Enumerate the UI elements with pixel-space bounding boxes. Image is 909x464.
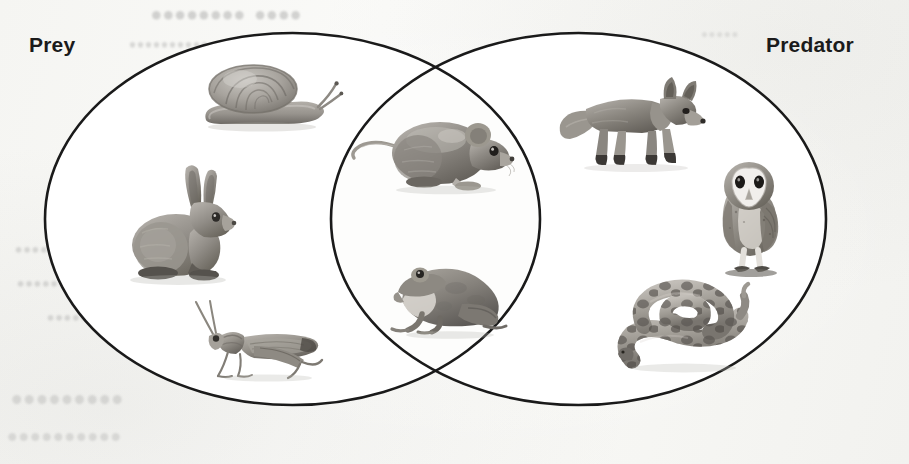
snake-icon[interactable]: Snake [614,262,762,378]
predator-set-label: Predator [766,33,854,57]
frog-icon[interactable]: Frog [384,248,512,340]
mouse-icon[interactable]: Mouse [348,100,516,196]
prey-set-label: Prey [29,33,75,57]
owl-icon[interactable]: Barn owl [702,150,798,278]
fox-icon[interactable]: Fox [556,55,708,177]
snail-icon[interactable]: Snail [196,62,346,134]
grasshopper-icon[interactable]: Grasshopper [176,298,336,382]
rabbit-icon[interactable]: Rabbit [128,163,260,289]
venn-diagram-canvas: •••• •••••••• •••••••••• •••••••• ••••••… [0,0,909,464]
